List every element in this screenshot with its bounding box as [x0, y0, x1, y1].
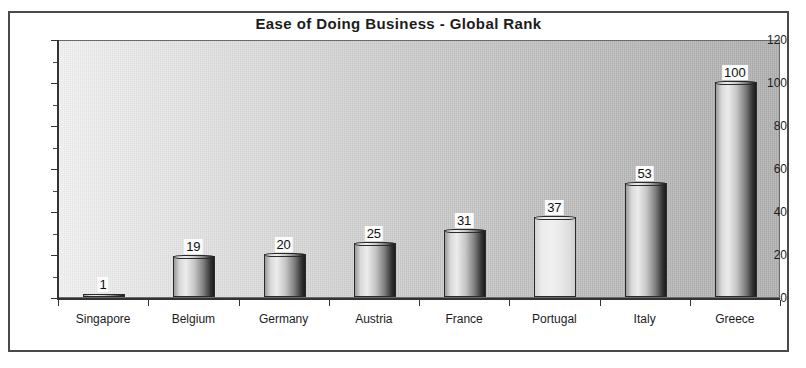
bar-portugal[interactable] [534, 217, 576, 297]
bar-belgium[interactable] [173, 256, 215, 297]
x-axis-category-france: France [445, 312, 482, 326]
chart-figure-frame: Ease of Doing Business - Global Rank 020… [8, 11, 789, 352]
y-axis-line [57, 40, 59, 299]
x-axis-tick-mark [239, 300, 240, 306]
x-axis-category-italy: Italy [634, 312, 656, 326]
y-axis-tick-label: 100 [753, 76, 787, 90]
y-axis-minor-tick [53, 191, 57, 192]
x-axis-category-singapore: Singapore [76, 312, 131, 326]
y-axis-tick-label: 80 [753, 119, 787, 133]
value-label-greece: 100 [722, 65, 748, 80]
value-label-portugal: 37 [545, 200, 563, 215]
x-axis-category-austria: Austria [355, 312, 392, 326]
value-label-italy: 53 [635, 166, 653, 181]
y-axis-tick-label: 60 [753, 162, 787, 176]
bar-top-cap [354, 242, 396, 246]
y-axis-tick-mark [51, 40, 57, 41]
bar-singapore[interactable] [83, 294, 125, 297]
value-label-austria: 25 [365, 226, 383, 241]
x-axis-tick-mark [509, 300, 510, 306]
x-axis-tick-mark [329, 300, 330, 306]
chart-title: Ease of Doing Business - Global Rank [10, 15, 787, 32]
value-label-france: 31 [455, 213, 473, 228]
value-label-germany: 20 [274, 237, 292, 252]
bar-austria[interactable] [354, 243, 396, 297]
x-axis-tick-mark [419, 300, 420, 306]
y-axis-tick-mark [51, 255, 57, 256]
x-axis-tick-mark [690, 300, 691, 306]
x-axis-tick-mark [148, 300, 149, 306]
y-axis-tick-label: 120 [753, 33, 787, 47]
x-axis-category-greece: Greece [715, 312, 754, 326]
y-axis-minor-tick [53, 62, 57, 63]
plot-background-texture [59, 41, 779, 297]
plot-area [58, 40, 780, 298]
x-axis-category-portugal: Portugal [532, 312, 577, 326]
y-axis-minor-tick [53, 277, 57, 278]
bar-italy[interactable] [625, 183, 667, 297]
y-axis-tick-label: 20 [753, 248, 787, 262]
bar-top-cap [264, 253, 306, 257]
y-axis-minor-tick [53, 148, 57, 149]
x-axis-category-germany: Germany [259, 312, 308, 326]
bar-top-cap [173, 255, 215, 259]
bar-germany[interactable] [264, 254, 306, 297]
figure-footer-band [10, 326, 787, 350]
bar-top-cap [444, 229, 486, 233]
bar-greece[interactable] [715, 82, 757, 297]
y-axis-minor-tick [53, 105, 57, 106]
scan-top-edge-bleed: · · [0, 0, 806, 9]
y-axis-tick-mark [51, 83, 57, 84]
y-axis-minor-tick [53, 234, 57, 235]
x-axis-tick-mark [58, 300, 59, 306]
bar-top-cap [715, 81, 757, 85]
scan-bleed-text: · · [10, 0, 21, 2]
value-label-singapore: 1 [98, 277, 109, 292]
x-axis-tick-mark [600, 300, 601, 306]
y-axis-tick-mark [51, 126, 57, 127]
x-axis-tick-mark [780, 300, 781, 306]
bar-top-cap [534, 216, 576, 220]
bar-france[interactable] [444, 230, 486, 297]
x-axis-category-belgium: Belgium [172, 312, 215, 326]
y-axis-tick-label: 40 [753, 205, 787, 219]
y-axis-tick-mark [51, 212, 57, 213]
bar-top-cap [625, 182, 667, 186]
value-label-belgium: 19 [184, 239, 202, 254]
y-axis-tick-mark [51, 169, 57, 170]
